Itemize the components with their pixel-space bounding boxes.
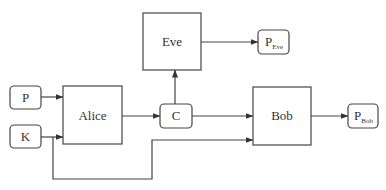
node-c: C: [160, 104, 192, 128]
node-p-bob-label: P: [354, 108, 361, 123]
node-p-eve: PEve: [258, 30, 289, 54]
node-eve-label: Eve: [162, 34, 182, 49]
node-bob-label: Bob: [271, 108, 293, 123]
node-eve: Eve: [143, 13, 201, 70]
node-p-eve-label: P: [265, 34, 272, 49]
node-p-bob-subscript: Bob: [361, 117, 373, 125]
node-c-label: C: [172, 108, 181, 123]
node-p-bob: PBob: [348, 104, 378, 128]
node-k-label: K: [21, 129, 31, 144]
node-alice: Alice: [63, 86, 122, 144]
node-p-label: P: [22, 90, 29, 105]
node-p: P: [10, 86, 41, 109]
encryption-flow-diagram: P K Alice C Eve PEve Bob PBob: [0, 0, 386, 190]
node-k: K: [10, 125, 41, 148]
node-p-eve-subscript: Eve: [272, 43, 283, 51]
node-bob: Bob: [253, 87, 311, 145]
node-alice-label: Alice: [78, 108, 106, 123]
